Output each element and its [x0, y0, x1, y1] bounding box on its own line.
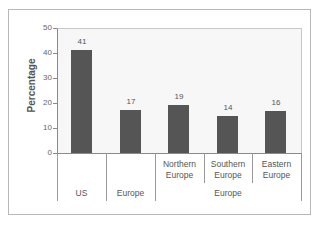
x-axis-baseline — [57, 153, 302, 154]
category-label-line2: Europe — [204, 170, 252, 181]
value-label-southern-europe: 14 — [213, 103, 243, 112]
value-label-europe: 17 — [116, 97, 146, 106]
category-label-line2: Europe — [155, 170, 204, 181]
value-label-eastern-europe: 16 — [261, 98, 291, 107]
value-label-us: 41 — [67, 37, 97, 46]
y-tick-0: 0 — [32, 148, 52, 157]
bar-eastern-europe — [265, 111, 286, 153]
value-label-northern-europe: 19 — [164, 92, 194, 101]
y-tick-50: 50 — [32, 23, 52, 32]
category-divider — [301, 153, 302, 201]
bar-europe — [120, 110, 141, 153]
bar-us — [71, 50, 92, 153]
category-label-line1: Eastern — [252, 159, 301, 170]
category-label-eastern: Eastern Europe — [252, 159, 301, 181]
group-label-europe: Europe — [155, 188, 301, 199]
category-label-us: US — [57, 188, 106, 199]
y-tick-30: 30 — [32, 73, 52, 82]
y-tick-20: 20 — [32, 98, 52, 107]
category-label-northern: Northern Europe — [155, 159, 204, 181]
category-label-line2: Europe — [252, 170, 301, 181]
category-label-line1: Northern — [155, 159, 204, 170]
bar-southern-europe — [217, 116, 238, 153]
y-tick-40: 40 — [32, 48, 52, 57]
category-label-line1: Southern — [204, 159, 252, 170]
y-axis-label: Percentage — [26, 51, 37, 121]
bar-northern-europe — [168, 105, 189, 153]
y-tick-10: 10 — [32, 123, 52, 132]
category-label-southern: Southern Europe — [204, 159, 252, 181]
category-label-europe: Europe — [106, 188, 155, 199]
